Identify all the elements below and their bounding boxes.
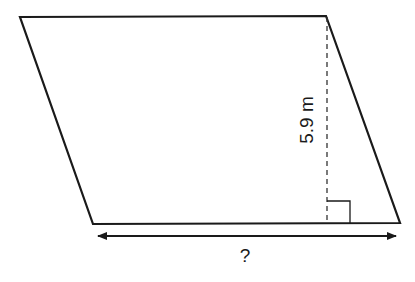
right-angle-marker: [327, 201, 350, 223]
height-label: 5.9 m: [296, 96, 317, 144]
base-label: ?: [240, 245, 251, 266]
parallelogram-outline: [20, 16, 400, 224]
parallelogram-diagram: 5.9 m ?: [0, 0, 415, 282]
